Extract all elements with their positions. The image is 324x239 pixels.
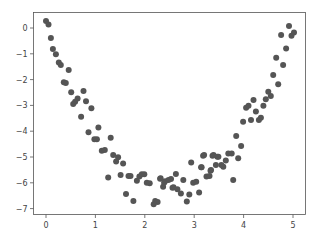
data-point bbox=[78, 114, 84, 120]
data-point bbox=[238, 143, 244, 149]
data-point bbox=[286, 23, 292, 29]
data-point bbox=[70, 101, 76, 107]
data-point bbox=[230, 177, 236, 183]
x-tick-label: 4 bbox=[241, 221, 246, 230]
x-tick-label: 5 bbox=[290, 221, 295, 230]
data-point bbox=[184, 199, 190, 205]
data-point bbox=[123, 191, 129, 197]
data-point bbox=[201, 152, 207, 158]
data-point bbox=[130, 198, 136, 204]
data-point bbox=[280, 62, 286, 68]
data-point bbox=[120, 161, 126, 167]
data-point bbox=[147, 180, 153, 186]
data-point bbox=[199, 164, 205, 170]
data-point bbox=[180, 177, 186, 183]
data-point bbox=[268, 93, 274, 99]
x-axis: 012345 bbox=[43, 215, 295, 230]
data-point bbox=[48, 35, 54, 41]
x-tick-label: 1 bbox=[93, 221, 98, 230]
data-point bbox=[173, 171, 179, 177]
data-point bbox=[68, 89, 74, 95]
data-point bbox=[233, 133, 239, 139]
data-point bbox=[118, 172, 124, 178]
data-point bbox=[196, 190, 202, 196]
y-tick-label: −3 bbox=[16, 101, 28, 110]
data-points bbox=[43, 18, 297, 207]
y-tick-label: −6 bbox=[16, 179, 28, 188]
data-point bbox=[223, 158, 229, 164]
y-tick-label: 0 bbox=[22, 24, 27, 33]
data-point bbox=[251, 97, 257, 103]
data-point bbox=[278, 32, 284, 38]
data-point bbox=[273, 55, 279, 61]
data-point bbox=[88, 105, 94, 111]
data-point bbox=[108, 135, 114, 141]
data-point bbox=[186, 191, 192, 197]
data-point bbox=[291, 29, 297, 35]
data-point bbox=[215, 154, 221, 160]
data-point bbox=[161, 180, 167, 186]
y-tick-label: −5 bbox=[16, 153, 28, 162]
data-point bbox=[141, 171, 147, 177]
data-point bbox=[58, 62, 64, 68]
data-point bbox=[220, 164, 226, 170]
data-point bbox=[53, 51, 59, 57]
y-tick-label: −4 bbox=[16, 127, 28, 136]
data-point bbox=[102, 147, 108, 153]
data-point bbox=[83, 98, 89, 104]
data-point bbox=[263, 96, 269, 102]
data-point bbox=[94, 136, 100, 142]
data-point bbox=[275, 81, 281, 87]
data-point bbox=[208, 167, 214, 173]
data-point bbox=[207, 173, 213, 179]
data-point bbox=[229, 150, 235, 156]
data-point bbox=[258, 115, 264, 121]
data-point bbox=[253, 109, 259, 115]
plot-frame bbox=[34, 13, 306, 215]
y-tick-label: −7 bbox=[16, 205, 28, 214]
data-point bbox=[283, 45, 289, 51]
data-point bbox=[168, 176, 174, 182]
data-point bbox=[240, 119, 246, 125]
scatter-chart: 012345 0−1−2−3−4−5−6−7 bbox=[0, 0, 324, 239]
x-tick-label: 2 bbox=[142, 221, 147, 230]
y-tick-label: −1 bbox=[16, 50, 28, 59]
x-tick-label: 0 bbox=[43, 221, 48, 230]
y-tick-label: −2 bbox=[16, 76, 28, 85]
data-point bbox=[95, 125, 101, 131]
data-point bbox=[178, 190, 184, 196]
data-point bbox=[213, 162, 219, 168]
data-point bbox=[248, 117, 254, 123]
data-point bbox=[193, 179, 199, 185]
data-point bbox=[66, 67, 72, 73]
data-point bbox=[63, 80, 69, 86]
y-axis: 0−1−2−3−4−5−6−7 bbox=[16, 24, 34, 214]
data-point bbox=[50, 46, 56, 52]
data-point bbox=[235, 155, 241, 161]
data-point bbox=[270, 72, 276, 78]
data-point bbox=[86, 129, 92, 135]
data-point bbox=[128, 173, 134, 179]
data-point bbox=[151, 201, 157, 207]
data-point bbox=[46, 22, 52, 28]
data-point bbox=[81, 88, 87, 94]
data-point bbox=[105, 174, 111, 180]
data-point bbox=[113, 159, 119, 165]
x-tick-label: 3 bbox=[192, 221, 197, 230]
data-point bbox=[246, 103, 252, 109]
data-point bbox=[260, 103, 266, 109]
data-point bbox=[188, 159, 194, 165]
